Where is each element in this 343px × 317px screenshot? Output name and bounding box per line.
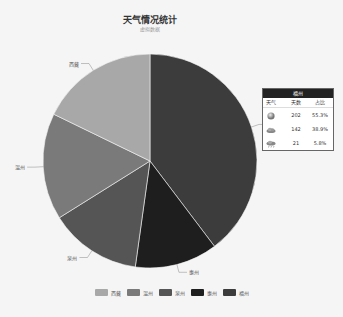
legend: 西藏 温州 泉州 惠州 福州 <box>0 289 343 296</box>
legend-swatch <box>223 289 236 296</box>
label-leader-line <box>79 251 91 258</box>
legend-item-huizhou[interactable]: 惠州 <box>191 289 217 296</box>
legend-label: 泉州 <box>175 289 185 296</box>
slice-label: 泉州 <box>67 255 77 261</box>
rain-icon <box>266 140 276 148</box>
legend-label: 福州 <box>239 289 249 296</box>
tooltip-columns: 天气 天数 占比 <box>263 98 333 108</box>
tooltip: 福州 天气 天数 占比 202 55.3% 142 38.9% 21 5.8% <box>262 88 334 151</box>
pie-chart: 福州惠州泉州温州西藏 <box>0 0 343 317</box>
legend-item-xizang[interactable]: 西藏 <box>95 289 121 296</box>
legend-swatch <box>95 289 108 296</box>
legend-item-fuzhou[interactable]: 福州 <box>223 289 249 296</box>
tooltip-row: 202 55.3% <box>263 108 333 122</box>
tooltip-row: 142 38.9% <box>263 122 333 136</box>
legend-label: 西藏 <box>111 289 121 296</box>
legend-label: 温州 <box>143 289 153 296</box>
slice-label: 温州 <box>15 164 25 171</box>
cloud-icon <box>266 126 276 134</box>
col-weather: 天气 <box>263 98 285 107</box>
slice-label: 惠州 <box>189 269 199 275</box>
sun-icon <box>266 112 276 120</box>
days-value: 142 <box>285 122 307 136</box>
pct-value: 55.3% <box>307 108 333 122</box>
pct-value: 5.8% <box>307 136 333 150</box>
tooltip-header: 福州 <box>263 89 333 98</box>
label-leader-line <box>177 265 187 273</box>
label-leader-line <box>81 64 93 71</box>
days-value: 202 <box>285 108 307 122</box>
legend-swatch <box>159 289 172 296</box>
days-value: 21 <box>285 136 307 150</box>
legend-item-wenzhou[interactable]: 温州 <box>127 289 153 296</box>
col-days: 天数 <box>285 98 307 107</box>
slice-label: 西藏 <box>69 61 79 68</box>
legend-swatch <box>127 289 140 296</box>
legend-item-quanzhou[interactable]: 泉州 <box>159 289 185 296</box>
legend-swatch <box>191 289 204 296</box>
col-pct: 占比 <box>307 98 333 107</box>
tooltip-row: 21 5.8% <box>263 136 333 150</box>
pct-value: 38.9% <box>307 122 333 136</box>
legend-label: 惠州 <box>207 289 217 296</box>
